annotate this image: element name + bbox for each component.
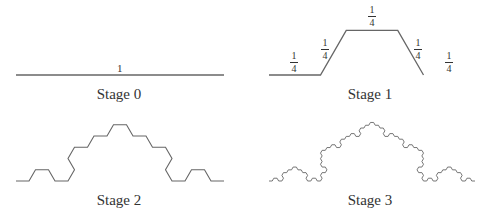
stage-1-caption: Stage 1 [310,86,430,103]
stage-1-segment-label-5: 14 [443,51,455,74]
stage-1-segment-label-2: 14 [319,38,331,61]
stage-2-caption: Stage 2 [59,192,179,209]
fractal-diagram [0,0,489,216]
stage-0-caption: Stage 0 [59,86,179,103]
stage-3-curve [269,122,475,181]
stage-1-segment-label-1: 14 [288,51,300,74]
stage-1-segment-label-3: 14 [366,5,378,28]
stage-3-caption: Stage 3 [310,192,430,209]
stage-0-length-label: 1 [117,62,123,74]
stage-2-curve [16,125,224,181]
stage-1-segment-label-4: 14 [412,38,424,61]
